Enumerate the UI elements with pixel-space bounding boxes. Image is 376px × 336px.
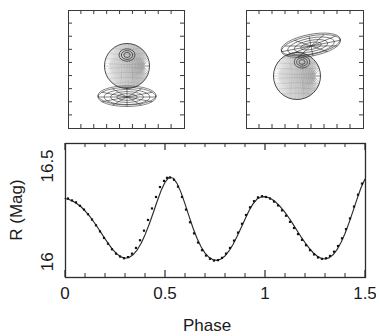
figure-canvas: 00.511.51616.5 R (Mag) Phase: [0, 0, 376, 336]
data-point: [297, 233, 299, 235]
data-point: [103, 237, 105, 239]
data-point: [147, 219, 149, 221]
data-point: [123, 257, 125, 259]
data-point: [353, 205, 355, 207]
data-point: [75, 201, 77, 203]
data-point: [357, 194, 359, 196]
x-axis-tick-label: 0.5: [153, 284, 177, 303]
data-point: [99, 230, 101, 232]
data-point: [155, 196, 157, 198]
y-axis-title: R (Mag): [7, 179, 26, 240]
data-point: [79, 205, 81, 207]
data-point: [166, 177, 168, 179]
figure-root: 00.511.51616.5 R (Mag) Phase: [0, 0, 376, 336]
data-point: [67, 197, 69, 199]
data-point: [87, 213, 89, 215]
star-sphere: [105, 44, 150, 89]
data-point: [217, 259, 219, 261]
data-point: [127, 256, 129, 258]
data-point: [71, 199, 73, 201]
data-point: [91, 218, 93, 220]
x-axis-title: Phase: [183, 316, 231, 335]
data-point: [313, 253, 315, 255]
x-axis-tick-label: 1.5: [353, 284, 376, 303]
data-point: [337, 245, 339, 247]
y-axis-tick-label: 16.5: [38, 149, 57, 182]
data-point: [115, 253, 117, 255]
y-axis-tick-label: 16: [38, 252, 57, 271]
data-point: [201, 249, 203, 251]
data-point: [159, 186, 161, 188]
data-point: [111, 248, 113, 250]
data-point: [301, 239, 303, 241]
data-point: [205, 254, 207, 256]
data-point: [253, 200, 255, 202]
data-point: [261, 195, 263, 197]
data-point: [325, 257, 327, 259]
data-point: [229, 247, 231, 249]
data-point: [139, 239, 141, 241]
data-point: [245, 214, 247, 216]
data-point: [321, 258, 323, 260]
data-point: [281, 209, 283, 211]
data-point: [185, 209, 187, 211]
data-point: [221, 257, 223, 259]
data-point: [289, 221, 291, 223]
data-point: [265, 196, 267, 198]
data-point: [209, 258, 211, 260]
data-point: [107, 243, 109, 245]
data-point: [273, 200, 275, 202]
data-point: [143, 230, 145, 232]
data-point: [189, 221, 191, 223]
data-point: [293, 227, 295, 229]
data-point: [269, 197, 271, 199]
data-point: [257, 196, 259, 198]
data-point: [233, 240, 235, 242]
data-point: [241, 223, 243, 225]
data-point: [83, 209, 85, 211]
data-point: [119, 255, 121, 257]
data-point: [193, 232, 195, 234]
data-point: [285, 215, 287, 217]
data-point: [341, 237, 343, 239]
data-point: [169, 176, 171, 178]
data-point: [181, 196, 183, 198]
data-point: [131, 253, 133, 255]
data-point: [329, 255, 331, 257]
data-point: [173, 179, 175, 181]
data-point: [345, 228, 347, 230]
data-point: [349, 217, 351, 219]
data-point: [213, 259, 215, 261]
x-axis-tick-label: 1: [260, 284, 269, 303]
data-point: [197, 241, 199, 243]
data-point: [309, 249, 311, 251]
data-point: [333, 251, 335, 253]
data-point: [177, 186, 179, 188]
star-sphere: [274, 53, 321, 100]
data-point: [237, 231, 239, 233]
data-point: [249, 206, 251, 208]
x-axis-tick-label: 0: [60, 284, 69, 303]
data-point: [277, 204, 279, 206]
data-point: [135, 247, 137, 249]
data-point: [317, 256, 319, 258]
data-point: [305, 244, 307, 246]
data-point: [225, 253, 227, 255]
data-point: [151, 207, 153, 209]
data-point: [163, 180, 165, 182]
data-point: [361, 182, 363, 184]
data-point: [95, 224, 97, 226]
